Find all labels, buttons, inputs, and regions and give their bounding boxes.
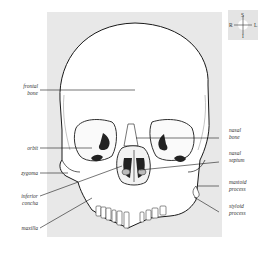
label-zygoma: zygoma [8,170,38,177]
label-styloid-process: styloid process [229,203,246,216]
label-line: septum [229,157,245,164]
label-line: bone [229,134,241,141]
compass-left: L [254,22,257,29]
label-mastoid-process: mastoid process [229,179,246,192]
label-nasal-bone: nasal bone [229,127,241,140]
label-line: concha [8,200,38,207]
label-line: maxilla [8,225,38,232]
compass-right: R [229,22,233,29]
label-orbit: orbit [8,145,38,152]
label-line: orbit [8,145,38,152]
label-maxilla: maxilla [8,225,38,232]
label-line: styloid [229,203,246,210]
left-orbit [74,120,116,161]
right-orbit [150,120,194,161]
label-inferior-concha: inferior concha [8,193,38,206]
label-line: nasal [229,127,241,134]
label-line: process [229,186,246,193]
skull-illustration [0,0,266,254]
compass-arrows-icon [234,16,252,34]
label-nasal-septum: nasal septum [229,150,245,163]
label-line: bone [8,90,38,97]
compass-inferior: I [242,33,244,40]
label-line: mastoid [229,179,246,186]
label-line: zygoma [8,170,38,177]
label-line: process [229,210,246,217]
label-frontal-bone: frontal bone [8,83,38,96]
nasal-cavity [117,146,151,185]
compass-superior: S [241,12,244,19]
